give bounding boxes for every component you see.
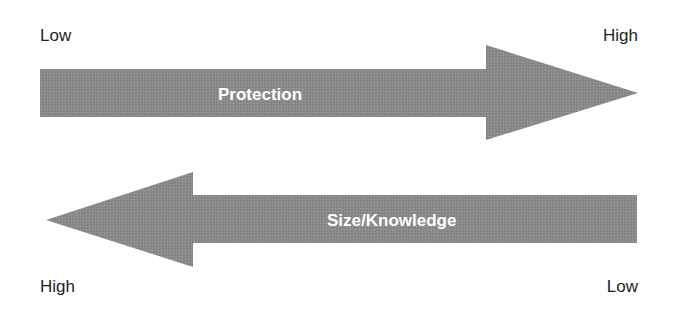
protection-low-label: Low bbox=[40, 27, 71, 44]
protection-high-label: High bbox=[603, 27, 638, 44]
size-knowledge-high-label: High bbox=[40, 278, 75, 295]
size-knowledge-label: Size/Knowledge bbox=[327, 211, 456, 230]
diagram-canvas: Protection Size/Knowledge bbox=[0, 0, 673, 312]
protection-label: Protection bbox=[218, 85, 302, 104]
size-knowledge-low-label: Low bbox=[607, 278, 638, 295]
protection-arrow bbox=[40, 45, 638, 140]
